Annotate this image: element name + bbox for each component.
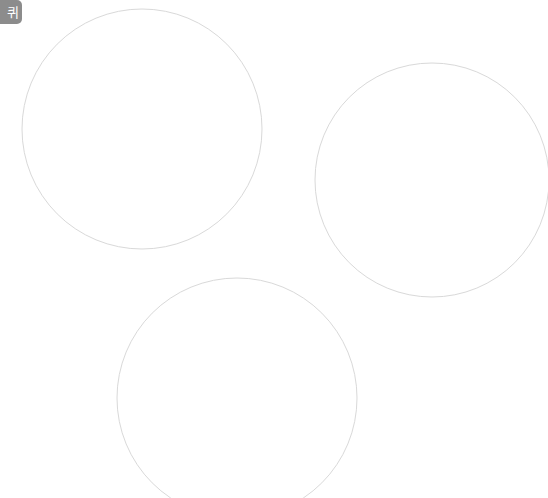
corner-badge[interactable]: 퀴: [0, 0, 22, 24]
drawing-canvas[interactable]: 퀴: [0, 0, 548, 498]
circle-bottom[interactable]: [117, 278, 357, 498]
circle-top-left[interactable]: [22, 9, 262, 249]
shape-layer: [0, 0, 548, 498]
screenshot-root: 퀴: [0, 0, 548, 498]
circles-svg: [0, 0, 548, 498]
circle-right[interactable]: [315, 63, 548, 297]
corner-badge-label: 퀴: [7, 6, 19, 19]
